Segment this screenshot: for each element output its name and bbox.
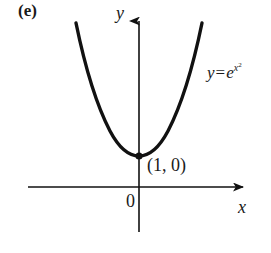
vertex-point-marker	[135, 152, 142, 159]
part-label: (e)	[18, 2, 37, 19]
equation-lhs: y	[207, 63, 215, 82]
equation-equals-sign: =	[216, 63, 226, 82]
equation-base: e	[226, 63, 234, 82]
graph-plot	[0, 0, 271, 253]
equation-exponent-power: 2	[238, 61, 242, 69]
vertex-point-label: (1, 0)	[147, 156, 186, 174]
equation-exponent: x2	[234, 62, 242, 73]
origin-label: 0	[126, 192, 135, 210]
curve-equation-label: y=ex2	[207, 62, 242, 81]
x-axis-label: x	[238, 198, 246, 216]
figure-container: (e) y x 0 (1, 0) y=ex2	[0, 0, 271, 253]
y-axis-label: y	[116, 4, 124, 22]
